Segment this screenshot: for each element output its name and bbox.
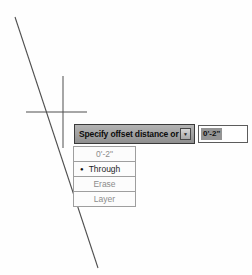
selected-input-value: 0'-2" [201, 128, 222, 140]
options-down-arrow-button[interactable]: ▼ [180, 128, 191, 140]
drawing-canvas[interactable]: Specify offset distance or ▼ 0'-2" 0'-2"… [0, 0, 252, 275]
dynamic-input-prompt-bar: Specify offset distance or ▼ [74, 124, 195, 144]
menu-item-label: 0'-2" [96, 149, 113, 159]
current-option-bullet-icon: ● [80, 166, 84, 172]
menu-item-layer[interactable]: Layer [73, 191, 136, 207]
menu-item-label: Layer [94, 194, 115, 204]
offset-options-menu: 0'-2" ● Through Erase Layer [73, 146, 136, 207]
prompt-text: Specify offset distance or [79, 129, 179, 139]
offset-distance-input[interactable]: 0'-2" [198, 125, 248, 143]
menu-item-label: Erase [93, 179, 115, 189]
menu-item-label: Through [89, 164, 121, 174]
down-arrow-icon: ▼ [183, 132, 188, 137]
menu-item-offset-distance[interactable]: 0'-2" [73, 146, 136, 162]
menu-item-erase[interactable]: Erase [73, 176, 136, 192]
menu-item-through[interactable]: ● Through [73, 161, 136, 177]
